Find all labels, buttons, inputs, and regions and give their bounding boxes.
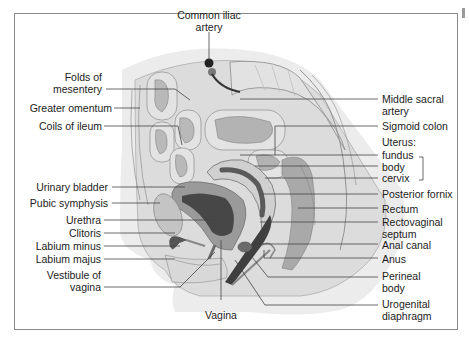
label-line: artery	[382, 105, 444, 117]
label-posterior-fornix: Posterior fornix	[382, 188, 453, 200]
label-line: vagina	[8, 281, 101, 293]
label-labium-majus: Labium majus	[8, 253, 101, 265]
label-line: Rectovaginal	[382, 216, 443, 228]
label-line: artery	[176, 21, 242, 33]
label-line: Vestibule of	[8, 269, 101, 281]
label-middle-sacral-artery: Middle sacral artery	[382, 93, 444, 117]
label-urethra: Urethra	[8, 214, 101, 226]
label-rectovaginal-septum: Rectovaginal septum	[382, 216, 443, 240]
label-line: Common iliac	[176, 9, 242, 21]
label-uterus-cervix: cervix	[382, 172, 409, 184]
label-coils-of-ileum: Coils of ileum	[8, 120, 102, 132]
label-common-iliac-artery: Common iliac artery	[176, 9, 242, 33]
label-vagina: Vagina	[198, 309, 244, 321]
label-uterus: Uterus:	[382, 136, 416, 148]
label-greater-omentum: Greater omentum	[8, 102, 112, 114]
label-urogenital-diaphragm: Urogenital diaphragm	[382, 298, 432, 322]
label-rectum: Rectum	[382, 203, 418, 215]
label-line: Perineal	[382, 270, 421, 282]
label-line: Folds of	[24, 71, 102, 83]
label-labium-minus: Labium minus	[8, 240, 101, 252]
label-vestibule-of-vagina: Vestibule of vagina	[8, 269, 101, 293]
perineal-body	[238, 242, 252, 252]
label-anal-canal: Anal canal	[382, 239, 431, 251]
label-line: body	[382, 282, 421, 294]
label-line: mesentery	[24, 83, 102, 95]
label-perineal-body: Perineal body	[382, 270, 421, 294]
label-line: diaphragm	[382, 310, 432, 322]
label-sigmoid-colon: Sigmoid colon	[382, 120, 448, 132]
label-urinary-bladder: Urinary bladder	[8, 181, 108, 193]
label-anus: Anus	[382, 253, 406, 265]
label-line: Middle sacral	[382, 93, 444, 105]
label-line: Urogenital	[382, 298, 432, 310]
label-clitoris: Clitoris	[8, 227, 101, 239]
label-folds-of-mesentery: Folds of mesentery	[24, 71, 102, 95]
label-pubic-symphysis: Pubic symphysis	[8, 197, 108, 209]
label-uterus-fundus: fundus	[382, 149, 414, 161]
